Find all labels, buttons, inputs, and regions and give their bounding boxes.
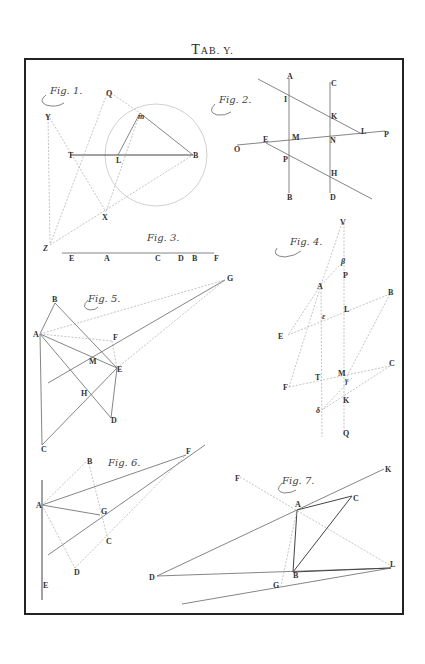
fig6-label-G: G bbox=[101, 507, 107, 516]
fig4-line-AF bbox=[289, 285, 321, 387]
fig4-caption-flourish bbox=[275, 248, 301, 257]
fig2-label-P: P bbox=[384, 130, 389, 139]
fig6-label-F: F bbox=[186, 447, 191, 456]
fig5-label-G: G bbox=[227, 274, 233, 283]
fig2-label-P-lower: P bbox=[283, 155, 288, 164]
fig1-label-Y: Y bbox=[45, 113, 51, 122]
fig1-label-Z: Z bbox=[42, 244, 48, 253]
fig1-label-X: X bbox=[102, 213, 108, 222]
fig5-line-EG bbox=[117, 280, 225, 368]
fig2-label-N: N bbox=[330, 136, 336, 145]
fig2-label-A: A bbox=[287, 72, 293, 81]
fig7-line-DK bbox=[157, 469, 384, 576]
fig4-label-K: K bbox=[343, 396, 350, 405]
fig6-label-A: A bbox=[36, 501, 42, 510]
fig1-line-mB bbox=[140, 113, 193, 155]
fig4-label-F: F bbox=[283, 383, 288, 392]
fig7-label-F: F bbox=[235, 474, 240, 483]
figure-7: Fig. 7. F K A C D B L G bbox=[149, 465, 395, 604]
fig7-label-G: G bbox=[273, 581, 279, 590]
fig1-label-m: m bbox=[138, 112, 144, 121]
fig5-line-BA bbox=[40, 303, 55, 334]
fig2-label-K: K bbox=[331, 112, 338, 121]
fig6-label-B: B bbox=[87, 457, 93, 466]
fig2-caption-flourish bbox=[211, 104, 231, 115]
fig7-line-BL bbox=[293, 568, 391, 572]
fig6-label-C: C bbox=[106, 537, 112, 546]
fig4-caption: Fig. 4. bbox=[289, 236, 322, 247]
fig5-line-BE bbox=[55, 303, 117, 368]
fig5-line-AG bbox=[40, 280, 225, 334]
fig1-caption: Fig. 1. bbox=[49, 85, 82, 96]
fig5-line-ED bbox=[111, 368, 117, 418]
fig7-label-A: A bbox=[295, 500, 301, 509]
fig7-line-AC bbox=[297, 496, 352, 510]
fig3-label-B: B bbox=[192, 254, 198, 263]
fig3-caption: Fig. 3. bbox=[146, 232, 179, 243]
fig4-label-C: C bbox=[389, 359, 395, 368]
plate-frame bbox=[25, 59, 403, 614]
fig4-label-beta: β bbox=[340, 257, 346, 266]
fig4-line-A-beta bbox=[321, 262, 343, 285]
fig5-label-H: H bbox=[81, 389, 88, 398]
fig6-label-D: D bbox=[74, 568, 80, 577]
fig1-label-B: B bbox=[193, 151, 199, 160]
fig4-line-EB bbox=[288, 294, 390, 335]
figure-1: Fig. 1. Q Y m T L B X Z bbox=[42, 85, 207, 253]
fig1-line-mX bbox=[106, 113, 140, 212]
fig4-label-B: B bbox=[388, 288, 394, 297]
fig7-label-K: K bbox=[385, 465, 392, 474]
fig5-label-D: D bbox=[111, 416, 117, 425]
fig2-label-M: M bbox=[292, 133, 300, 142]
fig4-label-A: A bbox=[317, 282, 323, 291]
fig1-line-QZ bbox=[50, 91, 108, 245]
fig2-caption: Fig. 2. bbox=[218, 94, 251, 105]
fig3-label-D: D bbox=[178, 254, 184, 263]
fig2-label-C: C bbox=[331, 79, 337, 88]
fig5-line-AE bbox=[40, 334, 117, 368]
fig2-label-L: L bbox=[361, 127, 366, 136]
fig7-caption: Fig. 7. bbox=[281, 475, 314, 486]
fig2-label-E: E bbox=[263, 135, 268, 144]
fig1-line-Qm bbox=[108, 91, 140, 113]
fig7-label-C: C bbox=[353, 494, 359, 503]
fig2-label-D: D bbox=[330, 193, 336, 202]
fig2-line-EH bbox=[266, 143, 372, 199]
fig6-line-BC bbox=[88, 460, 108, 540]
fig1-label-L: L bbox=[116, 156, 121, 165]
fig4-label-P: P bbox=[343, 271, 348, 280]
fig3-label-A: A bbox=[104, 254, 110, 263]
fig1-line-mL bbox=[118, 113, 140, 155]
fig3-label-E: E bbox=[69, 254, 74, 263]
fig4-label-V: V bbox=[340, 218, 346, 227]
figure-6: Fig. 6. B F A G C D E bbox=[36, 445, 205, 600]
fig7-label-L: L bbox=[390, 560, 395, 569]
fig6-caption: Fig. 6. bbox=[107, 457, 140, 468]
fig5-label-A: A bbox=[33, 330, 39, 339]
fig7-line-FL bbox=[240, 477, 391, 566]
fig4-line-C-delta bbox=[322, 366, 390, 410]
fig5-label-B: B bbox=[52, 295, 58, 304]
fig4-line-AE bbox=[288, 285, 321, 335]
fig7-line-L-lower bbox=[182, 568, 391, 604]
fig5-label-M: M bbox=[89, 357, 97, 366]
fig5-line-AF bbox=[40, 334, 112, 341]
fig5-label-E: E bbox=[117, 365, 122, 374]
fig6-label-E: E bbox=[43, 581, 48, 590]
fig7-line-AB bbox=[293, 510, 297, 572]
fig1-line-YZ bbox=[48, 115, 50, 245]
plate-diagram: Fig. 1. Q Y m T L B X Z Fig. 3. E A C D … bbox=[0, 0, 425, 664]
fig5-label-F: F bbox=[113, 333, 118, 342]
fig2-label-H: H bbox=[331, 169, 338, 178]
fig2-label-O: O bbox=[234, 145, 240, 154]
fig4-line-VA bbox=[321, 223, 342, 285]
fig4-line-A-down bbox=[321, 285, 322, 437]
fig4-label-delta: δ bbox=[316, 406, 320, 415]
fig5-label-C: C bbox=[41, 445, 47, 454]
fig5-line-AC bbox=[40, 334, 42, 445]
fig2-label-B: B bbox=[287, 193, 293, 202]
fig6-line-AD bbox=[42, 505, 75, 568]
figure-2: Fig. 2. A C I K L P O E M N P H B D bbox=[211, 72, 389, 202]
fig4-label-E: E bbox=[278, 332, 283, 341]
fig3-label-F: F bbox=[214, 254, 219, 263]
